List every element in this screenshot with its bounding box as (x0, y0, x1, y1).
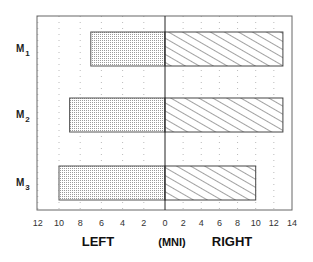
category-label-m1: M1 (16, 43, 30, 58)
diverging-bar-chart: 1210864202468101214 M1M2M3 LEFT (MNI) RI… (0, 0, 313, 262)
tick-label: 8 (78, 218, 83, 228)
tick-label: 2 (141, 218, 146, 228)
right-axis-label: RIGHT (212, 234, 253, 249)
bar-left-m3 (59, 166, 165, 200)
bars (59, 32, 283, 200)
bar-right-m3 (165, 166, 256, 200)
bar-right-m2 (165, 98, 283, 132)
tick-label: 6 (99, 218, 104, 228)
tick-label: 8 (235, 218, 240, 228)
category-labels: M1M2M3 (16, 43, 30, 192)
bar-left-m2 (70, 98, 165, 132)
tick-label: 4 (199, 218, 204, 228)
tick-label: 4 (120, 218, 125, 228)
center-axis-label: (MNI) (158, 236, 186, 248)
tick-label: 12 (269, 218, 279, 228)
tick-label: 6 (217, 218, 222, 228)
tick-label: 0 (162, 218, 167, 228)
tick-label: 12 (33, 218, 43, 228)
bar-left-m1 (91, 32, 165, 66)
tick-labels: 1210864202468101214 (33, 218, 297, 228)
tick-label: 14 (287, 218, 297, 228)
left-axis-label: LEFT (82, 234, 115, 249)
bar-right-m1 (165, 32, 283, 66)
category-label-m2: M2 (16, 109, 30, 124)
tick-label: 2 (181, 218, 186, 228)
category-label-m3: M3 (16, 177, 30, 192)
tick-label: 10 (54, 218, 64, 228)
tick-label: 10 (251, 218, 261, 228)
